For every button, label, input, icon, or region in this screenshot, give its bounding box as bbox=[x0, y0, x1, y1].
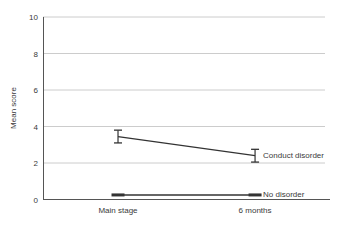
series-label: No disorder bbox=[263, 190, 305, 199]
thick-dash-marker bbox=[112, 193, 125, 196]
series-line bbox=[118, 137, 255, 156]
y-tick-label-10: 10 bbox=[29, 13, 38, 22]
gridlines bbox=[43, 17, 325, 163]
axes bbox=[43, 17, 330, 200]
y-tick-label-8: 8 bbox=[34, 50, 39, 59]
x-tick-label: Main stage bbox=[98, 206, 138, 215]
mean-score-line-chart: 0246810 Main stage6 months Conduct disor… bbox=[0, 0, 343, 225]
y-tick-label-6: 6 bbox=[34, 86, 39, 95]
y-tick-label-4: 4 bbox=[34, 123, 39, 132]
y-tick-labels: 0246810 bbox=[29, 13, 38, 205]
y-tick-label-2: 2 bbox=[34, 159, 39, 168]
y-axis-label: Mean score bbox=[9, 87, 18, 129]
series-label: Conduct disorder bbox=[263, 151, 324, 160]
thick-dash-marker bbox=[249, 193, 262, 196]
chart-figure: 0246810 Main stage6 months Conduct disor… bbox=[0, 0, 343, 225]
series-labels: Conduct disorderNo disorder bbox=[263, 151, 324, 199]
y-tick-label-0: 0 bbox=[34, 196, 39, 205]
x-tick-label: 6 months bbox=[239, 206, 272, 215]
x-tick-labels: Main stage6 months bbox=[98, 206, 271, 215]
